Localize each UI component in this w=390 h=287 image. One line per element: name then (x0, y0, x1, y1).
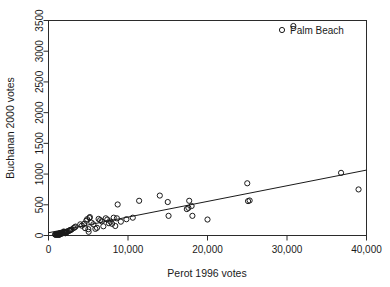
y-tick-label: 1500 (34, 132, 45, 155)
y-tick-label: 1000 (34, 163, 45, 186)
y-tick-label: 3000 (34, 40, 45, 63)
plot-svg: 0500100015002000250030003500 010,00020,0… (0, 0, 390, 287)
y-tick-label: 2500 (34, 70, 45, 93)
x-axis-title: Perot 1996 votes (167, 267, 246, 279)
x-tick-label: 40,000 (351, 244, 382, 255)
y-tick-label: 500 (34, 196, 45, 213)
x-tick-label: 0 (46, 244, 52, 255)
y-axis-title: Buchanan 2000 votes (4, 77, 16, 179)
y-tick-label: 0 (34, 232, 45, 238)
legend-label-palm-beach: Palm Beach (290, 25, 344, 36)
y-tick-label: 2000 (34, 101, 45, 124)
y-tick-label: 3500 (34, 9, 45, 32)
x-tick-label: 10,000 (113, 244, 144, 255)
x-tick-label: 30,000 (272, 244, 303, 255)
scatter-plot-figure: 0500100015002000250030003500 010,00020,0… (0, 0, 390, 287)
x-tick-label: 20,000 (192, 244, 223, 255)
legend: Palm Beach (279, 25, 344, 36)
